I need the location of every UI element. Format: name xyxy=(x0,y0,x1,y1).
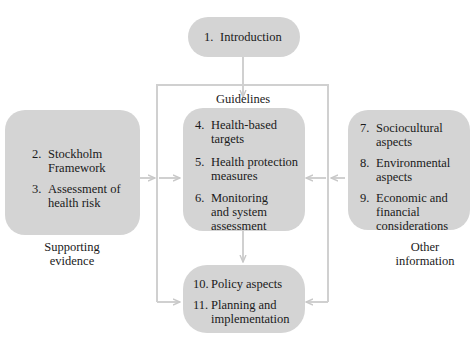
item-text: Health protection xyxy=(211,155,298,169)
item-text: measures xyxy=(211,169,258,183)
stockholm-framework-item: 2.StockholmFramework xyxy=(32,147,106,175)
item-text: financial xyxy=(376,205,420,219)
item-number: 7. xyxy=(360,121,376,135)
item-text: considerations xyxy=(376,219,448,233)
item-text: Environmental xyxy=(376,156,450,170)
item-text: Health-based xyxy=(211,118,277,132)
health-targets-item: 4.Health-basedtargets xyxy=(195,118,277,146)
item-text: aspects xyxy=(376,170,412,184)
item-text: Sociocultural xyxy=(376,121,443,135)
item-number: 3. xyxy=(32,182,48,196)
assessment-health-risk-item: 3.Assessment ofhealth risk xyxy=(32,182,121,210)
item-number: 5. xyxy=(195,155,211,169)
monitoring-item: 6.Monitoringand systemassessment xyxy=(195,191,268,233)
item-text: assessment xyxy=(211,219,267,233)
item-text: and system xyxy=(211,205,267,219)
caption-text: Supporting xyxy=(44,240,100,254)
item-text: aspects xyxy=(376,135,412,149)
introduction-box: 1.Introduction xyxy=(188,17,300,57)
item-number: 11. xyxy=(193,298,211,312)
item-text: Planning and xyxy=(211,298,277,312)
item-text: Economic and xyxy=(376,191,448,205)
policy-box: 10.Policy aspects 11.Planning andimpleme… xyxy=(183,265,305,333)
item-number: 2. xyxy=(32,147,48,161)
supporting-evidence-caption: Supporting evidence xyxy=(22,240,122,268)
item-number: 8. xyxy=(360,156,376,170)
other-information-caption: Other information xyxy=(375,240,475,268)
guidelines-label: Guidelines xyxy=(193,92,293,106)
item-text: Stockholm xyxy=(48,147,102,161)
other-information-box: 7.Socioculturalaspects 8.Environmentalas… xyxy=(348,110,470,230)
caption-text: information xyxy=(395,254,454,268)
item-text: Introduction xyxy=(220,30,282,44)
item-text: Monitoring xyxy=(211,191,268,205)
item-text: implementation xyxy=(211,312,289,326)
item-number: 1. xyxy=(204,30,220,44)
economic-item: 9.Economic andfinancialconsiderations xyxy=(360,191,448,233)
item-number: 6. xyxy=(195,191,211,205)
item-text: Assessment of xyxy=(48,182,121,196)
item-text: health risk xyxy=(48,196,100,210)
item-number: 9. xyxy=(360,191,376,205)
item-number: 10. xyxy=(193,277,211,291)
item-text: Policy aspects xyxy=(211,277,282,291)
caption-text: Other xyxy=(411,240,439,254)
policy-aspects-item: 10.Policy aspects xyxy=(193,277,282,291)
caption-text: evidence xyxy=(50,254,94,268)
introduction-item: 1.Introduction xyxy=(204,30,282,44)
guidelines-box: 4.Health-basedtargets 5.Health protectio… xyxy=(183,108,305,231)
health-protection-item: 5.Health protectionmeasures xyxy=(195,155,298,183)
item-text: Framework xyxy=(48,161,106,175)
item-number: 4. xyxy=(195,118,211,132)
environmental-item: 8.Environmentalaspects xyxy=(360,156,450,184)
item-text: targets xyxy=(211,132,244,146)
supporting-evidence-box: 2.StockholmFramework 3.Assessment ofheal… xyxy=(5,110,140,235)
planning-item: 11.Planning andimplementation xyxy=(193,298,289,326)
sociocultural-item: 7.Socioculturalaspects xyxy=(360,121,443,149)
